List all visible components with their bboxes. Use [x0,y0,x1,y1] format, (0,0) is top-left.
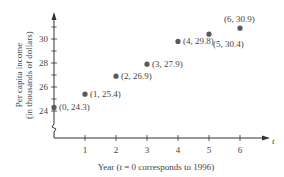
data-point-label: (5, 30.4) [213,39,244,49]
x-axis-variable-label: t [272,136,275,146]
data-points: (0, 24.3)(1, 25.4)(2, 26.9)(3, 27.9)(4, … [51,14,254,112]
scatter-chart: t 24262830 123456 (0, 24.3)(1, 25.4)(2, … [0,0,284,177]
x-tick-label: 4 [176,145,181,155]
x-tick-label: 1 [83,145,88,155]
x-tick-label: 5 [207,145,212,155]
data-point [51,105,56,110]
y-tick-label: 30 [39,34,49,44]
data-point [237,26,242,31]
axes: t [52,12,276,146]
data-point-label: (2, 26.9) [121,71,152,81]
x-tick-label: 3 [145,145,150,155]
y-axis-title-line2: (in thousands of dollars) [24,31,34,119]
y-axis-title-line1: Per capita income [14,43,24,107]
data-point [82,92,87,97]
data-point-label: (1, 25.4) [90,89,121,99]
axis-break-icon [52,124,56,138]
y-tick-label: 26 [39,82,49,92]
y-tick-label: 28 [39,58,49,68]
y-tick-label: 24 [39,106,49,116]
data-point [206,32,211,37]
x-tick-label: 6 [238,145,243,155]
data-point-label: (0, 24.3) [59,102,90,112]
x-tick-label: 2 [114,145,119,155]
x-axis-title: Year (t = 0 corresponds to 1996) [98,162,215,172]
data-point [175,39,180,44]
data-point-label: (3, 27.9) [152,59,183,69]
y-axis-arrow-icon [52,12,57,20]
x-axis-arrow-icon [262,136,270,141]
data-point-label: (4, 29.8) [183,36,214,46]
data-point [113,74,118,79]
data-point [144,62,149,67]
data-point-label: (6, 30.9) [224,14,255,24]
